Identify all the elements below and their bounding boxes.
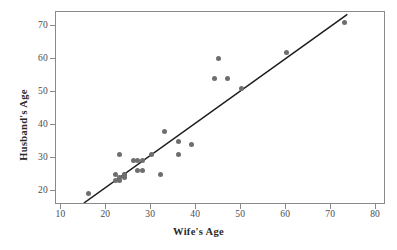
y-tick-label-70: 70: [38, 20, 48, 30]
data-point: [284, 50, 289, 55]
x-tick-label-60: 60: [280, 209, 290, 219]
data-point: [176, 152, 181, 157]
y-tick-label-40: 40: [38, 119, 48, 129]
y-tick-40: [50, 124, 55, 125]
y-tick-label-60: 60: [38, 53, 48, 63]
x-tick-label-70: 70: [325, 209, 335, 219]
plot-area: [56, 12, 384, 203]
plot-frame: [55, 11, 385, 204]
x-tick-label-50: 50: [235, 209, 245, 219]
y-tick-label-30: 30: [38, 152, 48, 162]
data-point: [122, 175, 127, 180]
y-axis-title: Husband's Age: [18, 70, 29, 180]
regression-line: [56, 12, 384, 203]
x-tick-label-80: 80: [370, 209, 380, 219]
y-tick-50: [50, 91, 55, 92]
x-tick-label-30: 30: [145, 209, 155, 219]
scatter-plot-figure: 1020304050607080 203040506070 Wife's Age…: [0, 0, 397, 250]
y-tick-label-50: 50: [38, 86, 48, 96]
y-tick-30: [50, 157, 55, 158]
data-point: [149, 152, 154, 157]
data-point: [158, 172, 163, 177]
x-axis-title: Wife's Age: [0, 226, 397, 237]
data-point: [212, 76, 217, 81]
x-tick-label-20: 20: [100, 209, 110, 219]
y-tick-60: [50, 58, 55, 59]
y-tick-label-20: 20: [38, 185, 48, 195]
y-tick-20: [50, 190, 55, 191]
x-tick-label-10: 10: [55, 209, 65, 219]
data-point: [176, 139, 181, 144]
x-tick-label-40: 40: [190, 209, 200, 219]
data-point: [239, 86, 244, 91]
y-tick-70: [50, 25, 55, 26]
